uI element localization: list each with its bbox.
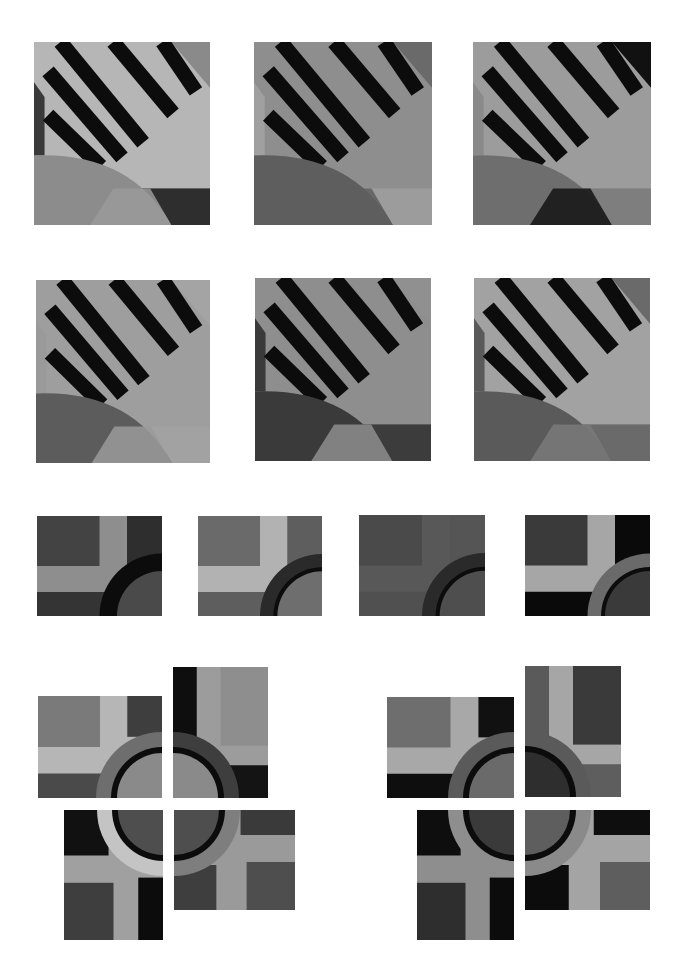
ring-tile: [359, 515, 485, 616]
cluster-quadrant-tl: [387, 697, 514, 798]
cluster-quadrant-tr: [525, 666, 621, 797]
cluster-quadrant-br: [174, 810, 295, 910]
ring-tile: [525, 515, 650, 616]
cluster-quadrant-tr: [173, 667, 268, 798]
ring-tile: [37, 516, 162, 616]
stripe-tile: [36, 280, 210, 463]
stripe-tile: [255, 278, 431, 461]
cluster-quadrant-br: [525, 810, 650, 910]
stripe-tile: [474, 278, 650, 461]
stripe-tile: [34, 42, 210, 225]
stripe-tile: [254, 42, 432, 225]
cluster-quadrant-bl: [417, 810, 514, 940]
stripe-tile: [473, 42, 651, 225]
cluster-quadrant-tl: [38, 696, 162, 798]
ring-tile: [198, 516, 322, 616]
cluster-quadrant-bl: [64, 810, 163, 940]
